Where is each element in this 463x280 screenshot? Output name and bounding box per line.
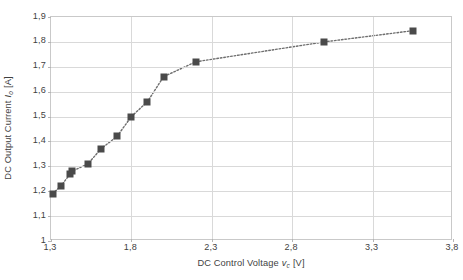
y-axis-tick-mark: [48, 216, 51, 217]
y-axis-tick-label: 1,7: [18, 61, 46, 70]
x-axis-title: DC Control Voltagevc[V]: [50, 258, 452, 268]
gridline-horizontal: [51, 191, 451, 192]
x-axis-tick-label: 3,8: [432, 243, 463, 252]
series-trend-line: [53, 31, 413, 194]
gridline-horizontal: [51, 166, 451, 167]
data-point-marker: [113, 133, 120, 140]
gridline-vertical: [212, 17, 213, 239]
x-axis-title-variable: v: [279, 258, 287, 268]
y-axis-title: DC Output CurrentIo[A]: [1, 16, 15, 240]
x-axis-title-unit: [V]: [290, 258, 305, 268]
x-axis-tick-label: 2,8: [271, 243, 311, 252]
gridline-horizontal: [51, 92, 451, 93]
gridline-vertical: [373, 17, 374, 239]
gridline-vertical: [131, 17, 132, 239]
y-axis-tick-mark: [48, 141, 51, 142]
y-axis-tick-label: 1,5: [18, 111, 46, 120]
x-axis-tick-labels: 1,31,82,32,83,33,8: [50, 243, 452, 255]
y-axis-tick-label: 1,6: [18, 86, 46, 95]
data-point-marker: [49, 190, 56, 197]
gridline-horizontal: [51, 117, 451, 118]
y-axis-title-text: DC Output Current: [3, 100, 13, 179]
gridline-horizontal: [51, 141, 451, 142]
x-axis-tick-label: 1,8: [110, 243, 150, 252]
y-axis-tick-label: 1,8: [18, 36, 46, 45]
data-point-marker: [84, 160, 91, 167]
gridline-horizontal: [51, 67, 451, 68]
y-axis-tick-mark: [48, 166, 51, 167]
y-axis-tick-mark: [48, 17, 51, 18]
x-axis-title-text: DC Control Voltage: [197, 258, 278, 268]
y-axis-tick-label: 1,9: [18, 12, 46, 21]
gridline-vertical: [292, 17, 293, 239]
data-point-marker: [409, 27, 416, 34]
y-axis-title-subscript: o: [7, 91, 14, 95]
y-axis-tick-mark: [48, 92, 51, 93]
x-axis-tick-label: 3,3: [352, 243, 392, 252]
gridline-horizontal: [51, 216, 451, 217]
y-axis-tick-label: 1,1: [18, 211, 46, 220]
data-point-marker: [144, 98, 151, 105]
y-axis-tick-label: 1,2: [18, 186, 46, 195]
data-point-marker: [160, 73, 167, 80]
data-point-marker: [68, 168, 75, 175]
y-axis-tick-mark: [48, 42, 51, 43]
data-point-marker: [321, 38, 328, 45]
data-point-marker: [128, 113, 135, 120]
y-axis-tick-label: 1,3: [18, 161, 46, 170]
x-axis-tick-label: 1,3: [30, 243, 70, 252]
plot-area: [50, 16, 452, 240]
data-point-marker: [192, 58, 199, 65]
x-axis-tick-label: 2,3: [191, 243, 231, 252]
y-axis-title-variable: I: [3, 95, 13, 101]
data-point-marker: [57, 183, 64, 190]
figure-caption: [6, 272, 461, 280]
x-axis-title-subscript: c: [287, 262, 290, 269]
series-line: [51, 17, 453, 241]
y-axis-tick-mark: [48, 67, 51, 68]
y-axis-title-unit: [A]: [3, 76, 13, 91]
gridline-horizontal: [51, 42, 451, 43]
y-axis-tick-labels: 11,11,21,31,41,51,61,71,81,9: [18, 0, 46, 280]
y-axis-tick-mark: [48, 117, 51, 118]
y-axis-tick-label: 1,4: [18, 136, 46, 145]
chart-figure: DC Output CurrentIo[A] 11,11,21,31,41,51…: [0, 0, 463, 280]
data-point-marker: [97, 145, 104, 152]
